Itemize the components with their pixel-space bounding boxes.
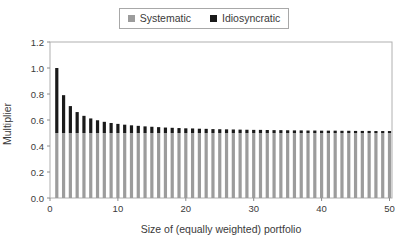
bar-segment-systematic <box>225 133 228 198</box>
bar-segment-systematic <box>184 133 187 198</box>
bar-segment-systematic <box>334 133 337 198</box>
bar-segment-idiosyncratic <box>62 95 65 133</box>
bar-segment-idiosyncratic <box>320 131 323 133</box>
bar-segment-idiosyncratic <box>272 130 275 133</box>
bar-segment-idiosyncratic <box>205 129 208 133</box>
bar-segment-systematic <box>96 133 99 198</box>
multiplier-vs-portfolio-size-chart: Systematic Idiosyncratic Multiplier Size… <box>0 0 408 245</box>
bar-segment-systematic <box>110 133 113 198</box>
bar-segment-systematic <box>150 133 153 198</box>
bar-segment-idiosyncratic <box>266 130 269 133</box>
bar-segment-systematic <box>293 133 296 198</box>
bar-segment-idiosyncratic <box>137 126 140 133</box>
bar-segment-idiosyncratic <box>225 129 228 133</box>
bar-segment-systematic <box>69 133 72 198</box>
bar-segment-systematic <box>177 133 180 198</box>
bar-segment-idiosyncratic <box>361 131 364 133</box>
y-tick-label: 0.2 <box>31 167 44 178</box>
bar-segment-systematic <box>320 133 323 198</box>
bar-segment-systematic <box>218 133 221 198</box>
bar-segment-systematic <box>171 133 174 198</box>
bar-segment-idiosyncratic <box>334 131 337 133</box>
bar-segment-idiosyncratic <box>198 129 201 133</box>
bar-segment-systematic <box>116 133 119 198</box>
x-tick-label: 10 <box>113 203 124 214</box>
bar-segment-systematic <box>354 133 357 198</box>
bar-segment-systematic <box>252 133 255 198</box>
bar-segment-idiosyncratic <box>232 129 235 133</box>
bar-segment-idiosyncratic <box>130 125 133 133</box>
y-tick-label: 0.4 <box>31 141 44 152</box>
bar-segment-idiosyncratic <box>143 126 146 133</box>
bar-segment-idiosyncratic <box>259 130 262 133</box>
bar-segment-systematic <box>313 133 316 198</box>
bar-segment-idiosyncratic <box>55 68 58 133</box>
bar-segment-idiosyncratic <box>374 131 377 133</box>
bar-segment-idiosyncratic <box>347 131 350 133</box>
x-tick-label: 0 <box>47 203 52 214</box>
bar-segment-idiosyncratic <box>239 130 242 133</box>
bar-segment-idiosyncratic <box>123 125 126 133</box>
bar-segment-systematic <box>143 133 146 198</box>
bar-segment-systematic <box>279 133 282 198</box>
bar-segment-idiosyncratic <box>110 123 113 133</box>
bar-segment-systematic <box>239 133 242 198</box>
bar-segment-systematic <box>272 133 275 198</box>
bar-segment-idiosyncratic <box>184 128 187 133</box>
bar-segment-idiosyncratic <box>76 112 79 133</box>
bar-segment-systematic <box>103 133 106 198</box>
bar-segment-idiosyncratic <box>252 130 255 133</box>
bar-segment-idiosyncratic <box>177 128 180 133</box>
bar-segment-systematic <box>157 133 160 198</box>
bar-segment-idiosyncratic <box>306 131 309 133</box>
bar-segment-idiosyncratic <box>211 129 214 133</box>
bar-segment-idiosyncratic <box>89 118 92 133</box>
bar-segment-systematic <box>300 133 303 198</box>
bar-segment-idiosyncratic <box>327 131 330 133</box>
y-axis-title: Multiplier <box>1 102 13 145</box>
bar-segment-systematic <box>123 133 126 198</box>
bar-segment-systematic <box>361 133 364 198</box>
x-tick-label: 20 <box>181 203 192 214</box>
bar-segment-idiosyncratic <box>218 129 221 133</box>
bar-segment-systematic <box>62 133 65 198</box>
bar-segment-idiosyncratic <box>103 122 106 133</box>
bar-segment-idiosyncratic <box>279 130 282 133</box>
bar-segment-systematic <box>245 133 248 198</box>
bar-segment-idiosyncratic <box>293 130 296 133</box>
x-axis-title: Size of (equally weighted) portfolio <box>141 223 302 235</box>
bar-segment-idiosyncratic <box>245 130 248 133</box>
bar-segment-idiosyncratic <box>191 128 194 133</box>
x-tick-label: 50 <box>384 203 395 214</box>
bar-segment-systematic <box>164 133 167 198</box>
bar-segment-systematic <box>82 133 85 198</box>
bar-segment-systematic <box>347 133 350 198</box>
y-tick-label: 0.0 <box>31 193 44 204</box>
bar-segment-idiosyncratic <box>116 124 119 133</box>
bar-segment-idiosyncratic <box>286 130 289 133</box>
bar-segment-systematic <box>286 133 289 198</box>
bar-segment-idiosyncratic <box>340 131 343 133</box>
bar-segment-systematic <box>130 133 133 198</box>
bar-segment-idiosyncratic <box>164 128 167 133</box>
bar-segment-systematic <box>259 133 262 198</box>
bar-segment-systematic <box>368 133 371 198</box>
bar-segment-idiosyncratic <box>171 128 174 133</box>
y-tick-label: 1.2 <box>31 37 44 48</box>
bar-segment-systematic <box>76 133 79 198</box>
bar-segment-idiosyncratic <box>69 106 72 133</box>
bar-segment-systematic <box>374 133 377 198</box>
bar-segment-idiosyncratic <box>96 120 99 133</box>
bar-segment-systematic <box>55 133 58 198</box>
bar-segment-systematic <box>89 133 92 198</box>
bar-segment-systematic <box>266 133 269 198</box>
y-tick-label: 0.6 <box>31 115 44 126</box>
bar-segment-systematic <box>211 133 214 198</box>
bar-segment-systematic <box>205 133 208 198</box>
y-tick-label: 1.0 <box>31 63 44 74</box>
bar-segment-systematic <box>327 133 330 198</box>
bar-segment-systematic <box>306 133 309 198</box>
bar-segment-idiosyncratic <box>150 127 153 133</box>
x-tick-label: 40 <box>316 203 327 214</box>
bar-segment-idiosyncratic <box>313 131 316 133</box>
